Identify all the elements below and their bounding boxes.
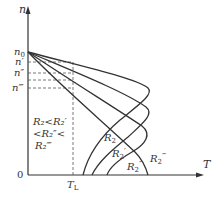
origin-label: 0 [17, 169, 23, 180]
inequality-line1: R₂<R₂′ [32, 116, 67, 127]
y-axis-arrow-icon [26, 6, 31, 14]
x-axis-label: T [203, 158, 212, 171]
x-axis-arrow-icon [196, 173, 204, 178]
load-torque-label: TL [67, 179, 79, 192]
curve-label-R2: R2 [103, 132, 116, 145]
n2-label: n″ [14, 67, 24, 78]
y-axis-label: n [19, 3, 26, 16]
n1-label: n′ [15, 56, 24, 67]
curve-label-R2-triple-prime: R2‴ [149, 151, 167, 166]
speed-torque-diagram: n T 0 n0 n′ n″ n‴ TL R₂<R₂′ <R₂″< R₂‴ R2… [0, 0, 213, 203]
inequality-line2: <R₂″< [33, 128, 65, 139]
characteristic-curves [28, 52, 149, 175]
curve-R2-triple-prime [28, 52, 148, 175]
inequality-line3: R₂‴ [34, 140, 53, 151]
curve-label-R2-prime: R2′ [111, 146, 126, 161]
n3-label: n‴ [12, 82, 24, 93]
curve-label-R2-double-prime: R2″ [126, 159, 142, 174]
